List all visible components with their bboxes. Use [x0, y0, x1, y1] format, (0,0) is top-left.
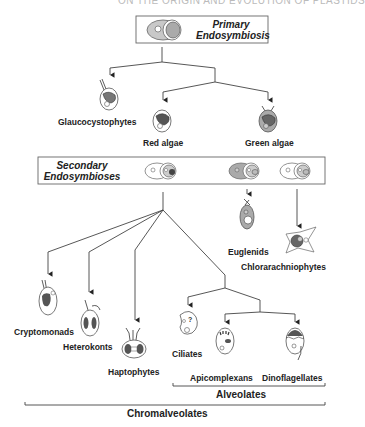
label-dinoflagellates: Dinoflagellates: [262, 373, 322, 383]
secondary-title-line2: Endosymbioses: [44, 171, 121, 182]
svg-text:?: ?: [188, 316, 192, 323]
red-alga-cell-icon: [153, 110, 171, 132]
label-red-algae: Red algae: [143, 138, 183, 148]
label-ciliates: Ciliates: [172, 349, 202, 359]
chlorarachniophyte-cell-icon: [286, 227, 316, 253]
euglenid-secondary-endosymbiosis-icon: [229, 163, 259, 179]
label-alveolates: Alveolates: [216, 389, 266, 400]
green-alga-cell-icon: [259, 106, 277, 132]
label-green-algae: Green algae: [245, 138, 294, 148]
dinoflagellate-cell-icon: [286, 328, 304, 360]
chlorarachniophyte-secondary-endosymbiosis-icon: [280, 163, 310, 179]
primary-endosymbiosis-title: Primary Endosymbiosis: [196, 19, 266, 41]
haptophyte-cell-icon: [122, 328, 146, 358]
glaucocystophyte-cell-icon: [100, 79, 118, 110]
label-glaucocystophytes: Glaucocystophytes: [58, 117, 136, 127]
primary-title-line2: Endosymbiosis: [196, 30, 270, 41]
primary-endosymbiosis-icon: [147, 20, 181, 40]
heterokont-cell-icon: [81, 300, 100, 336]
primary-title-line1: Primary: [212, 19, 249, 30]
apicomplexan-cell-icon: [216, 328, 234, 354]
label-chlorarachniophytes: Chlorarachniophytes: [241, 262, 326, 272]
ciliate-cell-icon: ?: [180, 311, 197, 334]
label-haptophytes: Haptophytes: [108, 367, 159, 377]
label-chromalveolates: Chromalveolates: [127, 408, 208, 419]
red-secondary-endosymbiosis-icon: [145, 163, 176, 179]
label-euglenids: Euglenids: [228, 247, 269, 257]
label-cryptomonads: Cryptomonads: [14, 327, 74, 337]
cryptomonad-cell-icon: [39, 280, 57, 315]
secondary-title-line1: Secondary: [56, 160, 107, 171]
secondary-endosymbioses-title: Secondary Endosymbioses: [42, 160, 122, 182]
label-apicomplexans: Apicomplexans: [190, 373, 253, 383]
label-heterokonts: Heterokonts: [63, 342, 113, 352]
euglenid-cell-icon: [240, 199, 254, 229]
